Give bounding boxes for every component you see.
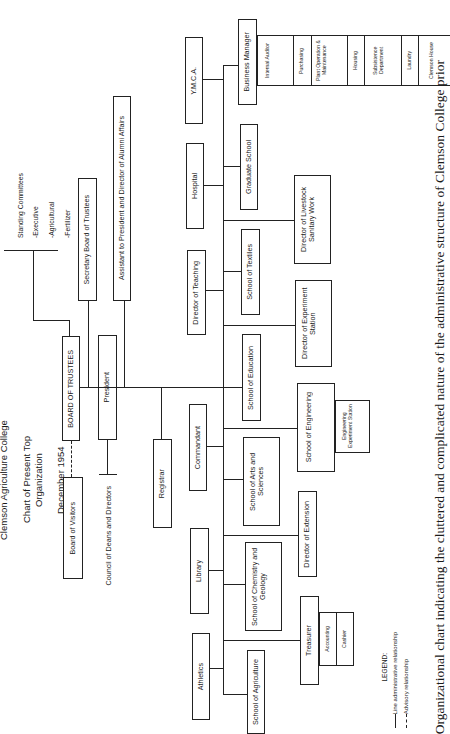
graduate-school-box: Graduate School	[240, 124, 258, 210]
business-unit-cell: Subsistence Department	[365, 36, 402, 85]
ymca-box: Y.M.C.A.	[185, 37, 203, 124]
connector-line	[124, 301, 125, 387]
connector-line	[223, 584, 245, 585]
cashier-box: Cashier	[336, 612, 354, 666]
connector-line	[207, 446, 223, 447]
committees-bracket-line	[4, 250, 58, 251]
committee-item: -Fertilizer	[64, 209, 71, 237]
commandant-box: Commandant	[189, 404, 207, 491]
legend: LEGEND: Line administrative relationship…	[381, 600, 415, 730]
connector-line	[223, 428, 297, 429]
business-unit-cell: Housing	[348, 36, 366, 85]
connector-line	[88, 301, 89, 387]
business-unit-cell: Plant Operation & Maintenance	[312, 36, 348, 85]
director-of-teaching-box: Director of Teaching	[187, 250, 206, 335]
school-of-textiles-box: School of Textiles	[241, 229, 260, 315]
committee-item: -Executive	[32, 206, 39, 238]
connector-line	[223, 479, 243, 480]
assistant-box: Assistant to President and Director of A…	[113, 96, 131, 301]
connector-line	[204, 185, 223, 186]
business-units-row: Internal Auditor Purchasing Plant Operat…	[257, 35, 450, 86]
connector-line	[223, 694, 247, 695]
title-line-2: Chart of Present Top Organization	[21, 437, 43, 524]
connector-line	[223, 65, 238, 66]
extension-director-box: Director of Extension	[298, 491, 317, 577]
library-box: Library	[190, 528, 209, 614]
figure-caption: Organizational chart indicating the clut…	[430, 108, 450, 734]
dashed-line-swatch	[406, 714, 407, 728]
solid-line-swatch	[395, 714, 396, 728]
school-of-education-box: School of Education	[242, 334, 261, 421]
business-unit-cell: Purchasing	[294, 36, 312, 85]
engineering-station-box: Engineering Experiment Station	[335, 400, 370, 453]
school-of-engineering-box: School of Engineering	[297, 383, 335, 472]
board-of-visitors-box: Board of Visitors	[63, 477, 83, 579]
title-line-1: Clemson Agriculture College	[0, 420, 10, 540]
athletics-box: Athletics	[192, 633, 210, 720]
connector-line	[223, 271, 241, 272]
trunk-line	[223, 65, 224, 694]
school-of-chemistry-box: School of Chemistry and Geology	[245, 542, 282, 631]
secretary-box: Secretary Board of Trustees	[78, 178, 97, 301]
connector-line	[161, 387, 162, 439]
connector-line	[206, 290, 223, 291]
livestock-director-box: Director of Livestock Sanitary Work	[294, 175, 331, 264]
business-unit-cell: Internal Auditor	[258, 36, 294, 85]
committee-item: -Agricultural	[48, 201, 55, 237]
connector-line	[33, 250, 34, 320]
experiment-station-director-box: Director of Experiment Station	[295, 280, 332, 367]
accounting-box: Accounting	[319, 612, 337, 666]
standing-committees: Standing Committees -Executive -Agricult…	[9, 166, 55, 244]
connector-line	[223, 166, 240, 167]
standing-committees-heading: Standing Committees	[17, 173, 24, 238]
council-label: Council of Deans and Directors	[103, 482, 115, 590]
business-unit-cell: Laundry	[402, 36, 419, 85]
chart-title: Clemson Agriculture College Chart of Pre…	[8, 415, 46, 545]
legend-heading: LEGEND:	[381, 653, 388, 682]
school-of-agriculture-box: School of Agriculture	[247, 650, 265, 734]
registrar-box: Registrar	[153, 439, 172, 528]
connector-line	[210, 668, 223, 669]
connector-line	[223, 535, 298, 536]
connector-line	[33, 320, 69, 321]
advisory-dashed-line	[71, 441, 72, 477]
connector-line	[223, 220, 294, 221]
connector-line	[203, 79, 223, 80]
legend-dashed-entry: Advisory relationship	[403, 659, 410, 730]
school-of-arts-and-sciences-box: School of Arts and Sciences	[243, 437, 280, 526]
council-bar	[99, 474, 117, 475]
connector-line	[69, 320, 70, 336]
board-of-trustees-box: BOARD OF TRUSTEES	[62, 336, 80, 441]
business-manager-box: Business Manager	[238, 19, 257, 105]
connector-line	[209, 570, 223, 571]
hospital-box: Hospital	[186, 143, 204, 229]
treasurer-box: Treasurer	[300, 596, 319, 685]
legend-solid-entry: Line administrative relationship	[392, 632, 399, 730]
connector-line	[107, 440, 108, 474]
connector-line	[223, 325, 295, 326]
connector-line	[223, 640, 300, 641]
